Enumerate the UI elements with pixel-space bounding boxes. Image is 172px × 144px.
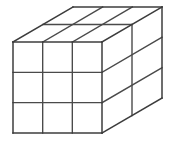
face-fill-group [13, 7, 162, 133]
figure-container [0, 0, 172, 144]
cube-grid-figure [0, 0, 172, 144]
front-face-fill [13, 42, 102, 133]
